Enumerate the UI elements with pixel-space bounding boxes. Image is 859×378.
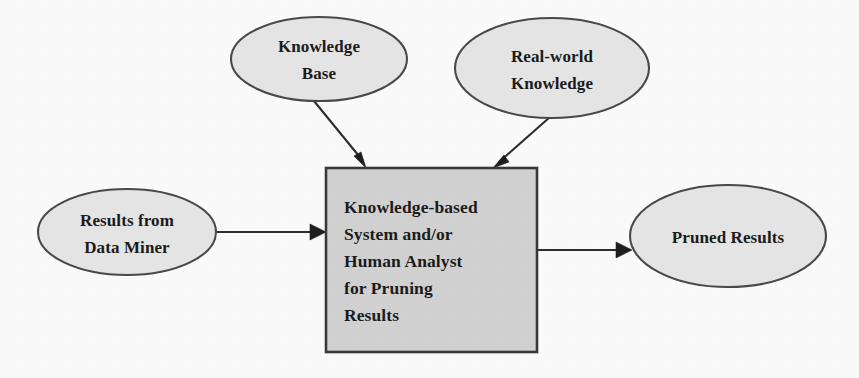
node-label-line: Human Analyst xyxy=(344,251,463,271)
ellipse-shape xyxy=(455,18,649,118)
arrowhead-icon xyxy=(493,155,509,168)
diagram-canvas: Knowledge Base Real-world Knowledge Resu… xyxy=(0,0,859,378)
arrowhead-icon xyxy=(310,224,326,240)
node-results-from-data-miner[interactable]: Results from Data Miner xyxy=(38,189,216,275)
arrowhead-icon xyxy=(354,152,366,168)
node-label-line: Results xyxy=(344,305,399,325)
diagram-svg: Knowledge Base Real-world Knowledge Resu… xyxy=(0,0,859,378)
node-label-line: Base xyxy=(302,64,337,83)
edge-system-to-pruned-results xyxy=(538,242,632,258)
edge-real-world-knowledge-to-system xyxy=(493,117,550,168)
ellipse-shape xyxy=(231,17,407,101)
edge-line xyxy=(499,117,550,162)
arrowhead-icon xyxy=(616,242,632,258)
node-real-world-knowledge[interactable]: Real-world Knowledge xyxy=(455,18,649,118)
node-label-line: Knowledge-based xyxy=(344,197,478,217)
node-label-line: Results from xyxy=(80,211,174,230)
node-label-line: for Pruning xyxy=(344,278,433,298)
node-label-line: Knowledge xyxy=(511,74,593,93)
ellipse-shape xyxy=(38,189,216,275)
node-label-line: Knowledge xyxy=(278,37,360,56)
edge-results-from-data-miner-to-system xyxy=(216,224,326,240)
node-knowledge-based-system[interactable]: Knowledge-based System and/or Human Anal… xyxy=(326,168,537,352)
edge-knowledge-base-to-system xyxy=(314,101,366,168)
node-label-line: Real-world xyxy=(511,47,594,66)
node-pruned-results[interactable]: Pruned Results xyxy=(630,185,826,287)
node-label-line: Data Miner xyxy=(84,238,170,257)
node-knowledge-base[interactable]: Knowledge Base xyxy=(231,17,407,101)
edge-line xyxy=(314,101,363,161)
node-label-line: System and/or xyxy=(344,224,453,244)
node-label-line: Pruned Results xyxy=(672,228,785,247)
